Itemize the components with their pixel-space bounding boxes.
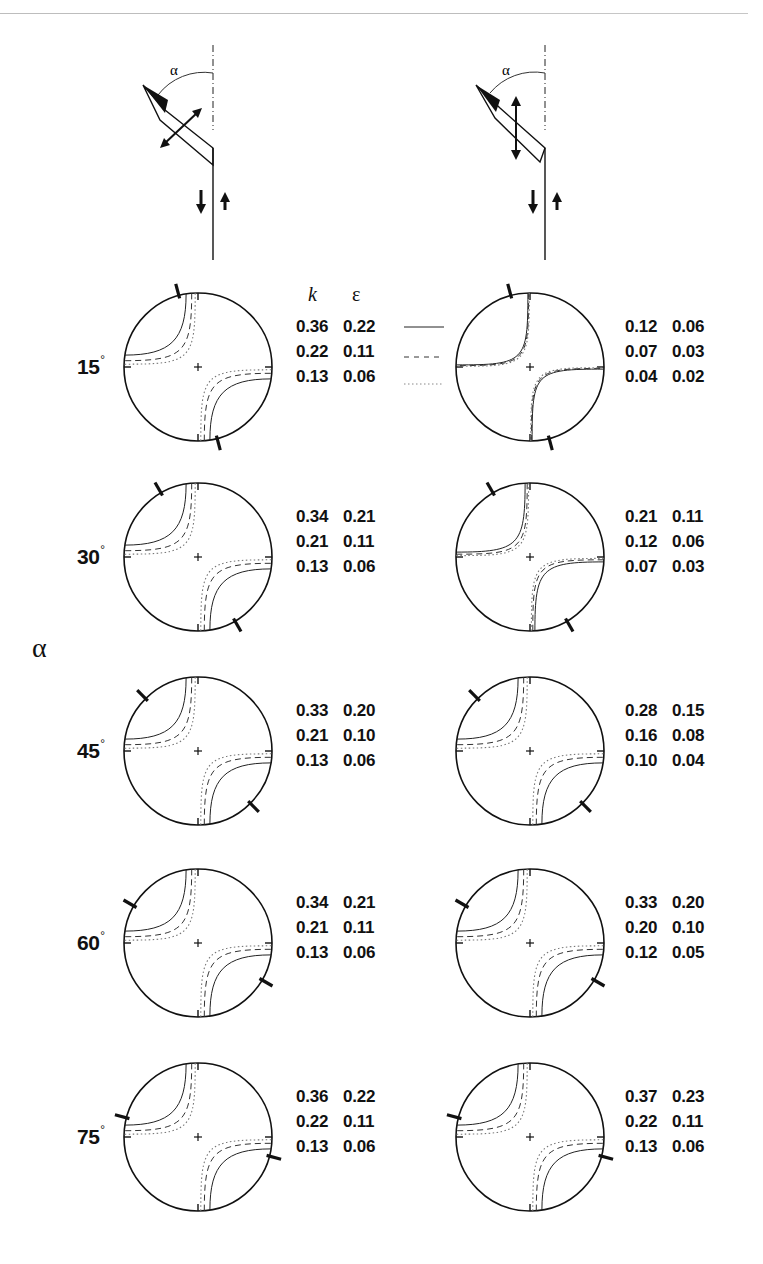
epsilon-value: 0.06 — [672, 529, 704, 554]
value-row: 0.130.06 — [625, 1134, 704, 1159]
stereonet-left-4 — [104, 1043, 292, 1231]
angle-label-0: 15° — [77, 355, 105, 379]
value-row: 0.070.03 — [625, 554, 704, 579]
header-epsilon: ε — [352, 283, 360, 306]
stereonet-right-0 — [436, 273, 624, 461]
stereonet-right-1 — [436, 463, 624, 651]
epsilon-value: 0.11 — [343, 529, 374, 554]
value-row: 0.280.15 — [625, 698, 704, 723]
value-row: 0.370.23 — [625, 1084, 704, 1109]
k-value: 0.13 — [296, 1134, 343, 1159]
epsilon-value: 0.21 — [343, 890, 375, 915]
epsilon-value: 0.05 — [672, 940, 704, 965]
page-header-rule — [0, 13, 500, 14]
k-value: 0.04 — [625, 364, 672, 389]
epsilon-value: 0.06 — [343, 364, 375, 389]
stereonet-right-4 — [436, 1043, 624, 1231]
value-row: 0.330.20 — [296, 698, 375, 723]
k-value: 0.20 — [625, 915, 672, 940]
angle-label-2: 45° — [77, 739, 105, 763]
schematic-right-alpha: α — [502, 62, 510, 78]
k-value: 0.13 — [296, 748, 343, 773]
k-value: 0.33 — [296, 698, 343, 723]
epsilon-value: 0.02 — [672, 364, 704, 389]
k-value: 0.34 — [296, 504, 343, 529]
angle-label-4: 75° — [77, 1125, 105, 1149]
k-value: 0.21 — [296, 723, 343, 748]
k-value: 0.13 — [296, 940, 343, 965]
value-row: 0.120.05 — [625, 940, 704, 965]
value-row: 0.130.06 — [296, 940, 375, 965]
value-row: 0.040.02 — [625, 364, 704, 389]
values-right-0: 0.120.060.070.030.040.02 — [625, 314, 704, 389]
value-row: 0.330.20 — [625, 890, 704, 915]
page-header-rule-right — [500, 13, 748, 14]
epsilon-value: 0.22 — [343, 314, 375, 339]
values-right-1: 0.210.110.120.060.070.03 — [625, 504, 704, 579]
k-value: 0.12 — [625, 529, 672, 554]
epsilon-value: 0.10 — [672, 915, 704, 940]
epsilon-value: 0.20 — [672, 890, 704, 915]
k-value: 0.22 — [296, 339, 343, 364]
k-value: 0.21 — [296, 915, 343, 940]
epsilon-value: 0.04 — [672, 748, 704, 773]
values-right-4: 0.370.230.220.110.130.06 — [625, 1084, 704, 1159]
epsilon-value: 0.03 — [672, 554, 704, 579]
value-row: 0.130.06 — [296, 1134, 375, 1159]
k-value: 0.13 — [625, 1134, 672, 1159]
epsilon-value: 0.11 — [672, 504, 703, 529]
epsilon-value: 0.06 — [343, 1134, 375, 1159]
angle-label-3: 60° — [77, 931, 105, 955]
header-k: k — [308, 283, 317, 306]
epsilon-value: 0.06 — [672, 1134, 704, 1159]
value-row: 0.220.11 — [296, 1109, 375, 1134]
stereonet-left-0 — [104, 273, 292, 461]
k-value: 0.07 — [625, 554, 672, 579]
value-row: 0.130.06 — [296, 554, 375, 579]
value-row: 0.210.11 — [296, 529, 375, 554]
epsilon-value: 0.11 — [343, 339, 374, 364]
value-row: 0.120.06 — [625, 529, 704, 554]
k-value: 0.10 — [625, 748, 672, 773]
epsilon-value: 0.22 — [343, 1084, 375, 1109]
values-right-2: 0.280.150.160.080.100.04 — [625, 698, 704, 773]
k-value: 0.36 — [296, 314, 343, 339]
epsilon-value: 0.21 — [343, 504, 375, 529]
stereonet-left-1 — [104, 463, 292, 651]
k-value: 0.22 — [625, 1109, 672, 1134]
values-left-1: 0.340.210.210.110.130.06 — [296, 504, 375, 579]
schematic-right: α — [460, 40, 660, 270]
values-right-3: 0.330.200.200.100.120.05 — [625, 890, 704, 965]
value-row: 0.360.22 — [296, 314, 375, 339]
k-value: 0.28 — [625, 698, 672, 723]
k-value: 0.16 — [625, 723, 672, 748]
value-row: 0.220.11 — [296, 339, 375, 364]
k-value: 0.13 — [296, 364, 343, 389]
value-row: 0.210.10 — [296, 723, 375, 748]
k-value: 0.07 — [625, 339, 672, 364]
epsilon-value: 0.08 — [672, 723, 704, 748]
epsilon-value: 0.10 — [343, 723, 375, 748]
epsilon-value: 0.11 — [672, 1109, 703, 1134]
value-row: 0.360.22 — [296, 1084, 375, 1109]
epsilon-value: 0.06 — [672, 314, 704, 339]
epsilon-value: 0.15 — [672, 698, 704, 723]
epsilon-value: 0.23 — [672, 1084, 704, 1109]
epsilon-value: 0.06 — [343, 940, 375, 965]
epsilon-value: 0.06 — [343, 748, 375, 773]
value-row: 0.130.06 — [296, 748, 375, 773]
k-value: 0.33 — [625, 890, 672, 915]
epsilon-value: 0.11 — [343, 1109, 374, 1134]
stereonet-right-2 — [436, 657, 624, 845]
stereonet-right-3 — [436, 849, 624, 1037]
value-row: 0.120.06 — [625, 314, 704, 339]
epsilon-value: 0.11 — [343, 915, 374, 940]
value-row: 0.220.11 — [625, 1109, 704, 1134]
values-left-2: 0.330.200.210.100.130.06 — [296, 698, 375, 773]
k-value: 0.36 — [296, 1084, 343, 1109]
k-value: 0.21 — [296, 529, 343, 554]
epsilon-value: 0.20 — [343, 698, 375, 723]
angle-label-1: 30° — [77, 545, 105, 569]
k-value: 0.12 — [625, 940, 672, 965]
schematic-left: α — [120, 40, 320, 270]
